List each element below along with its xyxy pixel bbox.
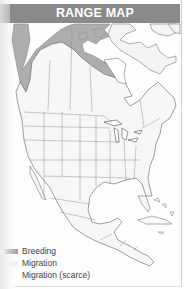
breeding-swatch xyxy=(4,249,18,254)
legend-label: Breeding xyxy=(22,246,56,256)
map-title: RANGE MAP xyxy=(10,4,180,23)
migration-scarce-swatch xyxy=(4,273,18,278)
legend-label: Migration (scarce) xyxy=(22,270,90,280)
legend-label: Migration xyxy=(22,258,57,268)
legend-item-migration-scarce: Migration (scarce) xyxy=(4,269,90,281)
legend-item-breeding: Breeding xyxy=(4,245,90,257)
map-legend: Breeding Migration Migration (scarce) xyxy=(4,245,90,281)
legend-item-migration: Migration xyxy=(4,257,90,269)
migration-swatch xyxy=(4,261,18,266)
